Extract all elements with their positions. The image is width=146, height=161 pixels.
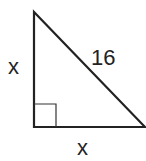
right-triangle bbox=[34, 12, 145, 127]
triangle-figure: x 16 x bbox=[0, 0, 146, 161]
hypotenuse-label: 16 bbox=[91, 45, 115, 70]
right-angle-marker-icon bbox=[34, 104, 56, 127]
bottom-leg-label: x bbox=[77, 135, 88, 160]
triangle-diagram: x 16 x bbox=[0, 0, 146, 161]
left-leg-label: x bbox=[8, 54, 19, 79]
